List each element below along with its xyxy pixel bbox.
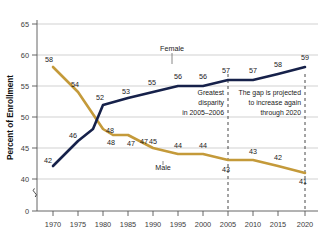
point-label-female-1970: 42 bbox=[44, 156, 52, 165]
point-label-male-1982: 47 bbox=[127, 139, 135, 148]
y-label-45: 45 bbox=[21, 144, 29, 153]
point-label-female-2020: 59 bbox=[301, 53, 309, 62]
y-label-55: 55 bbox=[21, 82, 29, 91]
point-label-female-1978: 48 bbox=[106, 126, 114, 135]
anno-2-line-3: through 2020 bbox=[260, 109, 301, 117]
y-label-60: 60 bbox=[21, 51, 29, 60]
y-label-65: 65 bbox=[21, 20, 29, 29]
point-label-male-2010: 43 bbox=[249, 147, 257, 156]
point-label-female-1975: 46 bbox=[69, 131, 77, 140]
point-label-female-2010: 57 bbox=[249, 66, 257, 75]
point-label-male-1975: 54 bbox=[71, 80, 79, 89]
x-label-2005: 2005 bbox=[220, 220, 236, 229]
anno-1-line-1: Greatest bbox=[198, 89, 225, 96]
y-axis-title: Percent of Enrollment bbox=[6, 75, 15, 160]
anno-1-line-2: disparity bbox=[198, 99, 224, 107]
x-label-1980: 1980 bbox=[95, 220, 111, 229]
point-label-female-1990: 55 bbox=[148, 78, 156, 87]
point-label-male-2015: 42 bbox=[274, 153, 282, 162]
point-label-male-1970: 58 bbox=[45, 55, 53, 64]
x-label-1995: 1995 bbox=[170, 220, 186, 229]
x-label-1985: 1985 bbox=[120, 220, 136, 229]
x-label-1970: 1970 bbox=[45, 220, 61, 229]
point-label-male-1980: 48 bbox=[107, 138, 115, 147]
point-label-female-1985: 53 bbox=[122, 87, 130, 96]
anno-2-line-1: The gap is projected bbox=[239, 89, 302, 97]
chart-svg: 65 60 55 50 45 40 0 Percent of Enrollmen… bbox=[0, 0, 326, 243]
x-axis-labels: 1970 1975 1980 1985 1990 1995 2000 2005 … bbox=[45, 220, 313, 229]
anno-2-line-2: to increase again bbox=[249, 99, 302, 107]
point-label-male-1990: 45 bbox=[149, 137, 157, 146]
point-label-female-1980: 52 bbox=[96, 93, 104, 102]
y-label-50: 50 bbox=[21, 113, 29, 122]
x-label-2015: 2015 bbox=[270, 220, 286, 229]
y-label-40: 40 bbox=[21, 175, 29, 184]
x-label-1975: 1975 bbox=[70, 220, 86, 229]
point-label-male-1995: 44 bbox=[174, 141, 182, 150]
anno-1-line-3: in 2005–2006 bbox=[182, 109, 224, 116]
point-label-female-2005: 57 bbox=[222, 66, 230, 75]
x-label-1990: 1990 bbox=[145, 220, 161, 229]
point-label-male-1985: 47 bbox=[140, 137, 148, 146]
point-label-female-1995: 56 bbox=[174, 72, 182, 81]
point-label-male-2020: 41 bbox=[299, 177, 307, 186]
enrollment-line-chart: 65 60 55 50 45 40 0 Percent of Enrollmen… bbox=[0, 0, 326, 243]
chart-background bbox=[0, 0, 326, 243]
y-label-0: 0 bbox=[25, 207, 29, 216]
point-label-male-2005: 43 bbox=[222, 165, 230, 174]
x-label-2000: 2000 bbox=[195, 220, 211, 229]
x-label-2010: 2010 bbox=[245, 220, 261, 229]
series-label-female: Female bbox=[160, 44, 184, 53]
point-label-female-2015: 58 bbox=[274, 60, 282, 69]
x-label-2020: 2020 bbox=[297, 220, 313, 229]
point-label-male-2000: 44 bbox=[199, 141, 207, 150]
point-label-female-2000: 56 bbox=[199, 72, 207, 81]
